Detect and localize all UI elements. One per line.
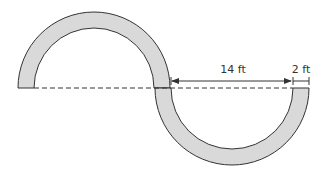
arrowhead-right-icon — [284, 78, 292, 84]
arrowhead-left-icon — [171, 78, 179, 84]
s-curve-diagram: 14 ft 2 ft — [0, 0, 324, 174]
lower-semicircle-band — [155, 88, 309, 165]
label-14ft: 14 ft — [220, 63, 246, 76]
label-2ft: 2 ft — [292, 63, 311, 76]
upper-semicircle-band — [18, 12, 170, 88]
